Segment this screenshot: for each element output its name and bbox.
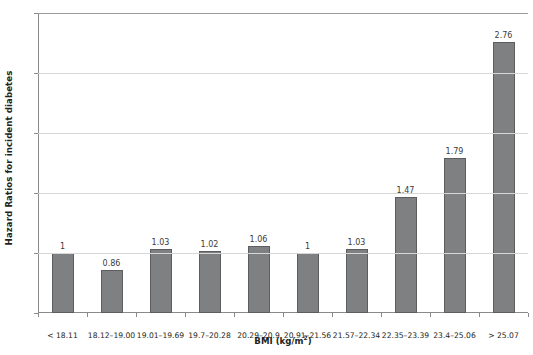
x-tick-mark	[283, 313, 284, 317]
x-tick-mark	[185, 313, 186, 317]
bar-series: 10.861.031.021.0611.031.471.792.76	[38, 13, 528, 313]
bar[interactable]	[199, 251, 221, 313]
bar-value-label: 1.02	[201, 240, 219, 249]
y-tick-mark	[34, 193, 38, 194]
bar-group[interactable]: 1	[283, 13, 332, 313]
bar-group[interactable]: 2.76	[479, 13, 528, 313]
x-tick-mark	[38, 313, 39, 317]
bar[interactable]	[346, 249, 368, 313]
bar[interactable]	[52, 253, 74, 313]
gridline	[38, 253, 528, 254]
bar-group[interactable]: 1.02	[185, 13, 234, 313]
x-tick-mark	[136, 313, 137, 317]
x-axis-title-tail: )	[308, 336, 312, 346]
bar[interactable]	[248, 246, 270, 313]
bar-value-label: 1.79	[446, 147, 464, 156]
bar-group[interactable]: 1.47	[381, 13, 430, 313]
bar-value-label: 1.06	[250, 235, 268, 244]
gridline	[38, 193, 528, 194]
x-axis-title: BMI (kg/m2)	[38, 334, 528, 346]
x-tick-mark	[234, 313, 235, 317]
bar-value-label: 1.03	[348, 238, 366, 247]
bar[interactable]	[150, 249, 172, 313]
bar-group[interactable]: 1.03	[136, 13, 185, 313]
bar[interactable]	[101, 270, 123, 313]
bar-value-label: 1.03	[152, 238, 170, 247]
x-axis-title-base: BMI (kg/m	[254, 336, 303, 346]
bar-group[interactable]: 0.86	[87, 13, 136, 313]
x-tick-mark	[87, 313, 88, 317]
bar-chart-figure: Hazard Ratios for incident diabetes 10.8…	[0, 0, 533, 355]
bar-group[interactable]: 1.79	[430, 13, 479, 313]
bar[interactable]	[297, 253, 319, 313]
y-tick-mark	[34, 73, 38, 74]
y-axis-title: Hazard Ratios for incident diabetes	[2, 0, 16, 315]
bar-value-label: 1	[305, 242, 310, 251]
x-tick-mark	[332, 313, 333, 317]
bar-group[interactable]: 1	[38, 13, 87, 313]
y-tick-mark	[34, 13, 38, 14]
x-tick-mark	[528, 313, 529, 317]
y-axis-title-text: Hazard Ratios for incident diabetes	[4, 70, 14, 245]
x-tick-mark	[479, 313, 480, 317]
bar[interactable]	[493, 42, 515, 313]
bar-group[interactable]: 1.03	[332, 13, 381, 313]
x-tick-mark	[381, 313, 382, 317]
y-tick-mark	[34, 133, 38, 134]
gridline	[38, 133, 528, 134]
x-tick-mark	[430, 313, 431, 317]
bar-value-label: 2.76	[495, 31, 513, 40]
bar-value-label: 1	[60, 242, 65, 251]
y-tick-mark	[34, 253, 38, 254]
gridline	[38, 13, 528, 14]
gridline	[38, 73, 528, 74]
bar[interactable]	[395, 197, 417, 313]
bar-group[interactable]: 1.06	[234, 13, 283, 313]
bar[interactable]	[444, 158, 466, 313]
plot-area: 10.861.031.021.0611.031.471.792.76 0.511…	[38, 13, 528, 313]
bar-value-label: 0.86	[103, 259, 121, 268]
